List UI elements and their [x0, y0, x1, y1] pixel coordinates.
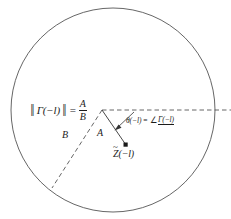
segment-a-label: A: [97, 128, 103, 138]
tilde-accent-icon: ~: [113, 143, 118, 152]
z-argument: (−l): [119, 149, 134, 159]
segment-b-label: B: [62, 130, 68, 140]
magnitude-bar-right: ‖: [62, 102, 66, 119]
fraction-denominator: B: [79, 112, 87, 123]
angle-symbol-icon: ∠: [149, 116, 156, 125]
angle-gamma-expression: Γ(−l): [158, 116, 174, 125]
angle-theta-expression: θ(−l): [126, 117, 141, 125]
magnitude-gamma-expression: Γ(−l): [37, 105, 60, 116]
a-over-b-fraction: A B: [79, 99, 87, 122]
magnitude-equals-sign: =: [70, 105, 76, 116]
z-tilde-point-marker: [124, 143, 128, 147]
angle-equation: θ(−l) = ∠ Γ(−l): [126, 116, 174, 125]
z-tilde-label: ~ Z (−l): [113, 149, 134, 159]
magnitude-bar-left: ‖: [30, 102, 34, 119]
angle-equals-sign: =: [143, 117, 147, 125]
fraction-numerator: A: [79, 99, 87, 110]
segment-a-line: [102, 110, 126, 145]
z-symbol-wrapper: ~ Z: [113, 149, 119, 159]
magnitude-equation: ‖ Γ(−l) ‖ = A B: [30, 99, 87, 122]
reflection-coefficient-figure: ‖ Γ(−l) ‖ = A B θ(−l) = ∠ Γ(−l) A B ~ Z …: [0, 0, 231, 219]
angle-indicator-arrow-head: [115, 125, 122, 131]
